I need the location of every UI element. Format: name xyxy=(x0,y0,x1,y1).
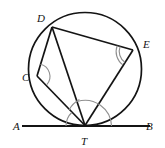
chord-de xyxy=(52,27,133,50)
geometry-canvas: A B C D E T xyxy=(0,0,165,148)
point-label-c: C xyxy=(22,71,30,83)
point-label-e: E xyxy=(142,38,150,50)
main-circle xyxy=(29,13,142,126)
angle-arc-e-inner xyxy=(119,47,125,63)
point-label-a: A xyxy=(12,120,20,132)
chord-dc xyxy=(37,27,52,76)
point-label-b: B xyxy=(146,120,153,132)
point-label-d: D xyxy=(36,12,45,24)
point-label-t: T xyxy=(81,135,88,147)
chord-dt xyxy=(52,27,85,126)
geometry-figure: A B C D E T xyxy=(0,0,165,148)
